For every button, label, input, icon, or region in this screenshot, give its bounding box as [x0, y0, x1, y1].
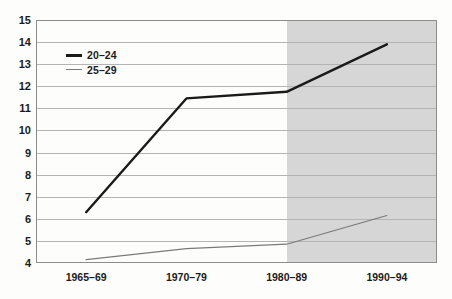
y-axis-tick-label: 5 [1, 235, 31, 246]
legend-item-0: 20–24 [66, 50, 117, 61]
x-axis-tick-label: 1990–94 [366, 272, 407, 283]
line-chart: 151413121110987654 1965–691970–791980–89… [0, 0, 452, 299]
y-axis-labels: 151413121110987654 [0, 20, 31, 263]
legend-item-1: 25–29 [66, 65, 117, 76]
x-axis-tick-label: 1980–89 [266, 272, 307, 283]
chart-legend: 20–24 25–29 [66, 50, 117, 75]
y-axis-tick-label: 10 [1, 125, 31, 136]
y-axis-tick-label: 4 [1, 258, 31, 269]
y-axis-tick-label: 7 [1, 191, 31, 202]
legend-line-swatch-icon [66, 54, 82, 57]
y-axis-tick-label: 11 [1, 103, 31, 114]
y-axis-tick-label: 14 [1, 37, 31, 48]
legend-item-label: 20–24 [87, 50, 117, 61]
y-axis-tick-label: 15 [1, 15, 31, 26]
legend-line-swatch-icon [66, 69, 82, 70]
x-axis-tick-label: 1965–69 [66, 272, 107, 283]
y-axis-tick-label: 12 [1, 81, 31, 92]
x-axis-tick-label: 1970–79 [166, 272, 207, 283]
x-axis-labels: 1965–691970–791980–891990–94 [0, 272, 452, 288]
y-axis-tick-label: 9 [1, 147, 31, 158]
y-axis-tick-label: 13 [1, 59, 31, 70]
legend-item-label: 25–29 [87, 65, 117, 76]
y-axis-tick-label: 8 [1, 169, 31, 180]
y-axis-tick-label: 6 [1, 213, 31, 224]
